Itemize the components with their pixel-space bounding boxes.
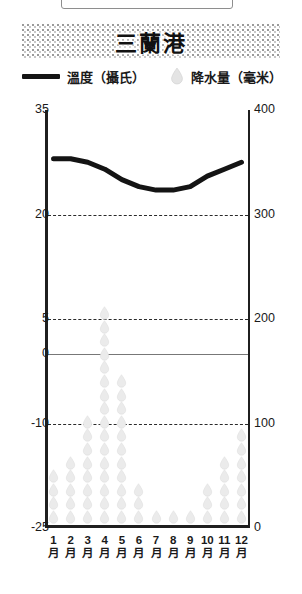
y-axis-left-tick: 20 bbox=[35, 208, 49, 221]
y-axis-left-tick: 0 bbox=[42, 347, 49, 360]
y-axis-right-tick: 200 bbox=[254, 312, 275, 325]
top-clipped-box bbox=[61, 0, 233, 9]
x-tick-suffix: 月 bbox=[230, 547, 252, 560]
x-tick-number: 12 bbox=[230, 534, 252, 547]
y-axis-right-tick: 100 bbox=[254, 417, 275, 430]
raindrop-icon bbox=[170, 67, 184, 85]
legend-item-precipitation: 降水量（毫米） bbox=[170, 67, 282, 86]
legend-item-temperature: 溫度（攝氏） bbox=[22, 67, 162, 86]
temperature-line bbox=[45, 110, 250, 528]
x-axis-labels: 1月2月3月4月5月6月7月8月9月10月11月12月 bbox=[45, 532, 250, 566]
line-swatch-icon bbox=[22, 74, 60, 79]
page-title: 三蘭港 bbox=[115, 25, 187, 57]
legend-label-temperature: 溫度（攝氏） bbox=[67, 67, 145, 86]
y-axis-left-tick: -10 bbox=[31, 417, 49, 430]
y-axis-right-tick: 300 bbox=[254, 208, 275, 221]
legend-label-precipitation: 降水量（毫米） bbox=[191, 67, 282, 86]
y-axis-right-tick: 0 bbox=[254, 521, 261, 534]
chart-title-band: 三蘭港 bbox=[22, 24, 280, 58]
y-axis-left-tick: 35 bbox=[35, 103, 49, 116]
y-axis-right-tick: 400 bbox=[254, 103, 275, 116]
chart-legend: 溫度（攝氏） 降水量（毫米） bbox=[22, 64, 284, 88]
y-axis-left-tick: 5 bbox=[42, 312, 49, 325]
climate-chart: 352050-10-254003002001000 1月2月3月4月5月6月7月… bbox=[0, 96, 302, 566]
x-axis-tick-month-12: 12月 bbox=[230, 534, 252, 560]
